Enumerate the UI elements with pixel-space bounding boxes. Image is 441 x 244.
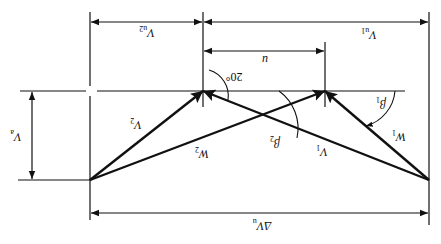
angle-20-label: 20° [225,70,242,84]
beta1-label: β1 [376,95,387,111]
w1-label: W1 [392,128,406,144]
w2-label: W2 [195,145,209,161]
w2-vector [90,91,325,180]
va-label: Va [10,128,21,144]
velocity-triangle-diagram: Vu2 Vu1 u 20° Va V2 W2 V1 W1 β1 β2 ΔVu [0,0,441,244]
v1-label: V1 [316,143,327,159]
v2-label: V2 [130,116,141,132]
vu2-label: Vu2 [139,24,154,40]
beta2-arc [279,91,298,138]
vu1-label: Vu1 [361,26,376,42]
v2-vector [90,91,203,180]
u-label: u [262,53,268,67]
beta2-label: β2 [270,134,281,150]
delta-vu-label: ΔVu [253,217,272,233]
